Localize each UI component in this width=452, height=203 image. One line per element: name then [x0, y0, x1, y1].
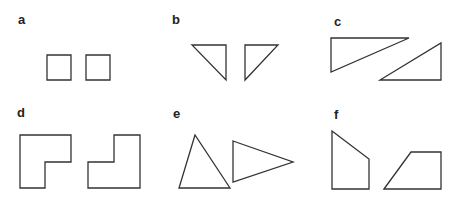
- l-shape-right: [88, 135, 140, 188]
- triangle-upright: [179, 135, 230, 188]
- panel-label-c: c: [334, 14, 341, 29]
- panel-f: f: [332, 107, 441, 189]
- trapezoid-right: [384, 152, 441, 189]
- right-triangle-right: [245, 45, 278, 80]
- triangle-rotated: [233, 141, 293, 182]
- square-right: [86, 55, 110, 80]
- long-triangle-left: [331, 38, 409, 72]
- panel-label-e: e: [173, 106, 180, 121]
- panel-e: e: [173, 106, 293, 188]
- panel-c: c: [331, 14, 441, 80]
- l-shape-left: [20, 135, 71, 188]
- panel-a: a: [18, 12, 110, 80]
- panel-label-b: b: [172, 12, 180, 27]
- panel-b: b: [172, 12, 278, 80]
- panel-label-d: d: [17, 105, 25, 120]
- shape-pairs-diagram: a b c d e f: [0, 0, 452, 203]
- square-left: [47, 55, 71, 80]
- panel-label-a: a: [18, 12, 26, 27]
- panel-label-f: f: [334, 107, 339, 122]
- quadrilateral-left: [332, 131, 369, 189]
- long-triangle-right: [380, 43, 441, 80]
- right-triangle-left: [192, 45, 226, 80]
- panel-d: d: [17, 105, 140, 188]
